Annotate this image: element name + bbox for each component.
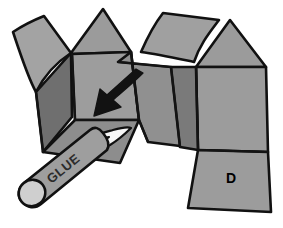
box-assembly-illustration: D GLUE bbox=[0, 0, 283, 228]
right-panel bbox=[196, 67, 268, 152]
panel-d-label: D bbox=[226, 170, 236, 186]
diagram-canvas: D GLUE bbox=[0, 0, 283, 228]
